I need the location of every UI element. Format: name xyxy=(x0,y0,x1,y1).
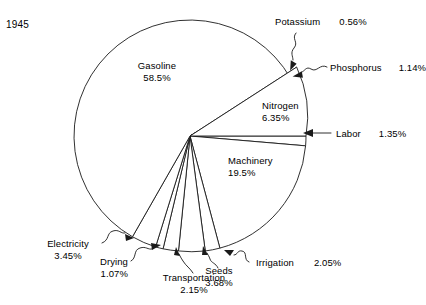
slice-label-nitrogen: Nitrogen 6.35% xyxy=(262,100,322,123)
slice-label-labor-pct: 1.35% xyxy=(379,128,406,139)
slice-label-irrigation: Irrigation2.05% xyxy=(256,257,341,269)
leader-potassium xyxy=(292,33,296,60)
slice-label-transportation-name: Transportation xyxy=(136,272,252,284)
slice-label-phosphorus-name: Phosphorus xyxy=(330,62,382,73)
slice-label-gasoline-name: Gasoline xyxy=(112,60,202,72)
slice-label-irrigation-pct: 2.05% xyxy=(314,257,341,268)
leader-irrigation xyxy=(234,251,249,262)
slice-label-labor-name: Labor xyxy=(336,128,361,139)
slice-label-machinery-pct: 19.5% xyxy=(228,167,300,179)
slice-label-potassium-pct: 0.56% xyxy=(339,16,366,27)
leader-phosphorus xyxy=(302,66,327,72)
slice-label-electricity: Electricity 3.45% xyxy=(36,238,100,261)
pie-slices xyxy=(74,20,308,252)
slice-label-machinery-name: Machinery xyxy=(228,155,300,167)
leader-transportation xyxy=(179,254,193,273)
slice-label-phosphorus: Phosphorus1.14% xyxy=(330,62,426,74)
slice-label-phosphorus-pct: 1.14% xyxy=(399,62,426,73)
slice-label-electricity-name: Electricity xyxy=(36,238,100,250)
slice-label-gasoline-pct: 58.5% xyxy=(112,72,202,84)
slice-label-nitrogen-pct: 6.35% xyxy=(262,112,322,124)
arrowhead-irrigation xyxy=(224,250,234,256)
slice-label-irrigation-name: Irrigation xyxy=(256,257,294,268)
slice-label-transportation-pct: 2.15% xyxy=(136,284,252,296)
slice-label-gasoline: Gasoline 58.5% xyxy=(112,60,202,83)
slice-label-labor: Labor1.35% xyxy=(336,128,406,140)
slice-label-machinery: Machinery 19.5% xyxy=(228,155,300,178)
slice-label-transportation: Transportation 2.15% xyxy=(136,272,252,295)
slice-label-electricity-pct: 3.45% xyxy=(36,250,100,262)
slice-label-potassium: Potassium0.56% xyxy=(275,16,367,28)
slice-label-drying-pct: 1.07% xyxy=(66,268,128,280)
leader-drying xyxy=(131,247,152,261)
leader-electricity xyxy=(102,231,125,243)
slice-label-nitrogen-name: Nitrogen xyxy=(262,100,322,112)
slice-label-potassium-name: Potassium xyxy=(275,16,320,27)
